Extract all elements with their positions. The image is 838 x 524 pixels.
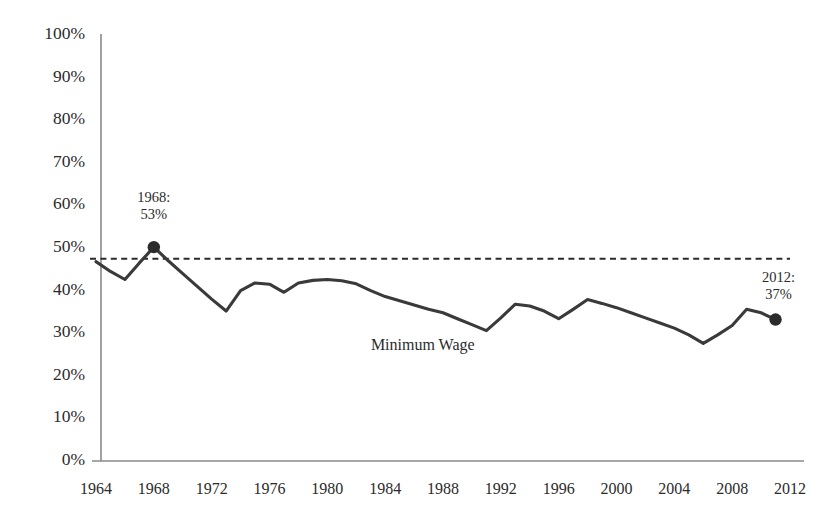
annotation-peak-value: 53% <box>141 206 168 222</box>
annotation-peak-year: 1968: <box>137 189 170 205</box>
y-axis-tick-label: 30% <box>53 321 85 341</box>
chart-container: 0%10%20%30%40%50%60%70%80%90%100% 196419… <box>0 0 838 524</box>
x-axis-tick-labels: 1964196819721976198019841988199219962000… <box>80 480 806 497</box>
y-axis-tick-label: 60% <box>53 193 85 213</box>
series-inline-label: Minimum Wage <box>371 336 475 354</box>
y-axis-tick-labels: 0%10%20%30%40%50%60%70%80%90%100% <box>44 23 85 469</box>
data-series-group <box>96 247 776 343</box>
x-axis-tick-label: 1996 <box>543 480 575 497</box>
series-label-text: Minimum Wage <box>371 336 475 354</box>
x-axis-tick-label: 2004 <box>658 480 690 497</box>
y-axis-tick-label: 10% <box>53 406 85 426</box>
annotation-endpoint-year: 2012: <box>762 269 795 285</box>
annotation-endpoint-value: 37% <box>765 286 792 302</box>
x-axis-tick-label: 1972 <box>196 480 228 497</box>
x-axis-tick-label: 1968 <box>138 480 170 497</box>
y-axis-tick-label: 40% <box>53 279 85 299</box>
y-axis-tick-label: 50% <box>53 236 85 256</box>
minimum-wage-line-chart: 0%10%20%30%40%50%60%70%80%90%100% 196419… <box>0 0 838 524</box>
x-axis-tick-label: 1980 <box>311 480 343 497</box>
series-line-minimum-wage <box>96 247 776 343</box>
endpoint-marker <box>769 313 781 325</box>
y-axis-tick-label: 0% <box>62 449 85 469</box>
y-axis-tick-label: 80% <box>53 108 85 128</box>
annotation-group: 1968:53%2012:37% <box>137 189 795 302</box>
y-axis-tick-label: 20% <box>53 364 85 384</box>
peak-marker <box>148 241 160 253</box>
x-axis-tick-label: 1984 <box>369 480 401 497</box>
x-axis-tick-label: 2012 <box>774 480 806 497</box>
x-axis-tick-label: 2000 <box>601 480 633 497</box>
x-axis-tick-label: 2008 <box>716 480 748 497</box>
y-axis-tick-label: 70% <box>53 151 85 171</box>
x-axis-tick-label: 1992 <box>485 480 517 497</box>
y-axis-tick-label: 100% <box>44 23 85 43</box>
x-axis-tick-label: 1976 <box>254 480 286 497</box>
x-axis-tick-label: 1988 <box>427 480 459 497</box>
x-axis-tick-label: 1964 <box>80 480 112 497</box>
y-axis-tick-label: 90% <box>53 66 85 86</box>
data-point-markers <box>148 241 782 326</box>
